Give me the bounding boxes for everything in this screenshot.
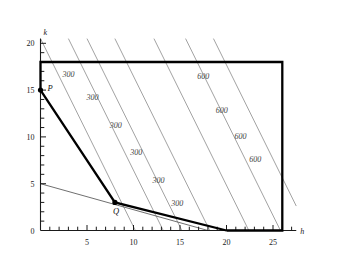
y-axis-name: k xyxy=(44,28,48,37)
contour-value-label: 300 xyxy=(152,176,165,185)
y-tick-label: 15 xyxy=(27,86,35,95)
contour-value-label: 300 xyxy=(129,148,142,157)
point-label-p: P xyxy=(47,83,53,93)
contour-value-label: 600 xyxy=(197,72,209,81)
contour-600-c xyxy=(213,39,296,206)
contour-value-label: 300 xyxy=(170,199,183,208)
y-tick-label: 20 xyxy=(27,39,35,48)
x-tick-label: 20 xyxy=(223,238,231,247)
contour-300-c xyxy=(87,39,182,231)
point-marker-q xyxy=(112,200,117,205)
contour-value-label: 600 xyxy=(249,155,261,164)
contour-lines-layer xyxy=(41,39,297,231)
x-tick-label: 10 xyxy=(130,238,138,247)
x-tick-label: 25 xyxy=(269,238,277,247)
x-axis-name: h xyxy=(300,227,304,236)
contour-value-label: 300 xyxy=(61,70,74,79)
y-tick-label: 10 xyxy=(27,133,35,142)
x-tick-label: 5 xyxy=(85,238,89,247)
contour-300-d xyxy=(115,39,210,231)
contour-value-label: 300 xyxy=(86,93,99,102)
contour-value-label: 600 xyxy=(234,132,246,141)
point-label-q: Q xyxy=(113,206,119,216)
point-marker-p xyxy=(38,88,43,93)
origin-label: 0 xyxy=(31,227,35,236)
contour-300-a xyxy=(41,39,136,231)
y-tick-label: 5 xyxy=(31,180,35,189)
contour-600-b xyxy=(186,39,281,231)
figure-container: 300300300300300300600600600600 510152025… xyxy=(0,0,341,266)
x-tick-label: 15 xyxy=(176,238,184,247)
contour-value-labels-layer: 300300300300300300600600600600 xyxy=(61,70,261,208)
production-isocost-plot: 300300300300300300600600600600 510152025… xyxy=(0,0,341,266)
contour-value-label: 300 xyxy=(109,121,122,130)
contour-value-label: 600 xyxy=(216,106,228,115)
feasible-boundary-layer xyxy=(41,62,283,230)
